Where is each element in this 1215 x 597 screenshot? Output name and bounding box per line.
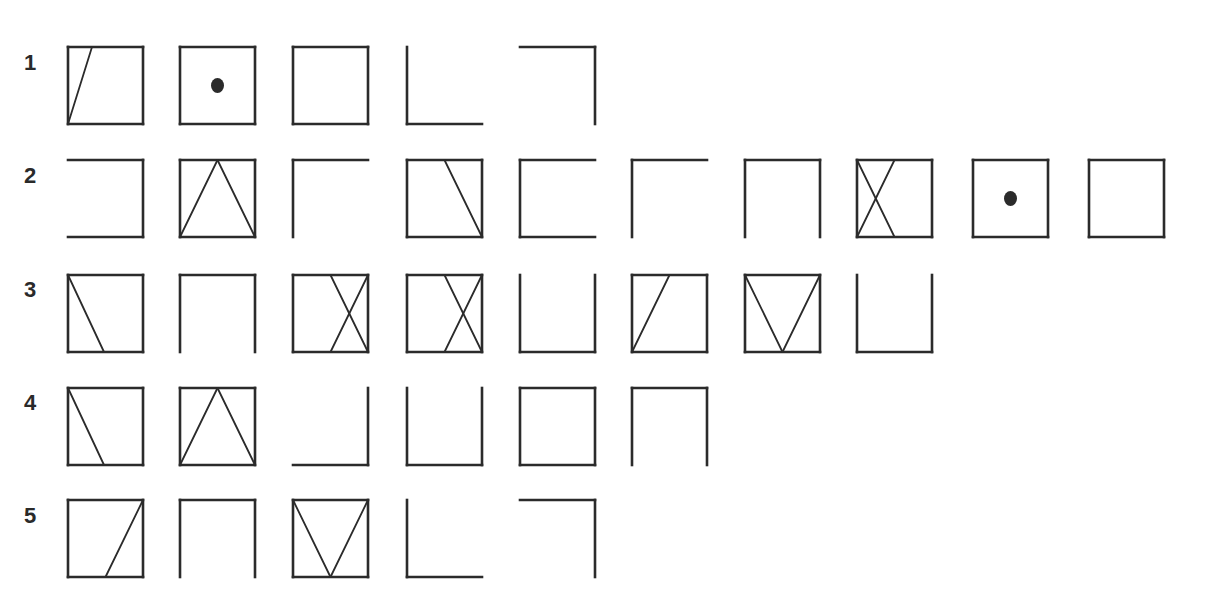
symbol-corner-L (407, 500, 482, 577)
symbol-bracket-open-bottom (180, 500, 255, 577)
symbol-corner-top-right (520, 47, 595, 124)
symbol-corner-top-right (520, 500, 595, 577)
symbol-box-triangle-up (180, 388, 255, 465)
symbol-box (293, 47, 368, 124)
symbol-box-line-tl-to-bmid (68, 275, 143, 352)
symbol-bracket-open-bottom (632, 388, 707, 465)
symbol-corner-L (407, 47, 482, 124)
diagonal-line (106, 500, 144, 577)
symbol-bracket-open-top (520, 275, 595, 352)
symbol-row-4: 4 (24, 388, 707, 465)
v-left-side (293, 500, 331, 577)
symbol-bracket-open-bottom (180, 275, 255, 352)
triangle-right-side (218, 388, 256, 465)
symbol-bracket-open-left (68, 160, 143, 237)
symbol-box-v (745, 275, 820, 352)
center-dot (1004, 191, 1017, 206)
symbol-row-1: 1 (24, 47, 595, 124)
symbol-box-slash-bl-to-t1 (68, 47, 143, 124)
row-label: 2 (24, 163, 36, 188)
symbol-bracket-open-top (407, 388, 482, 465)
symbol-box-line-tmid-to-br (407, 160, 482, 237)
symbol-bracket-open-bottom (745, 160, 820, 237)
symbol-box-line-bmid-to-tr (68, 500, 143, 577)
symbol-row-3: 3 (24, 275, 932, 352)
symbol-box-x-right (293, 275, 368, 352)
symbol-box-x-left (857, 160, 932, 237)
diagonal-line (68, 47, 92, 124)
diagonal-line (632, 275, 670, 352)
diagonal-line (445, 160, 483, 237)
symbol-box (1089, 160, 1164, 237)
symbol-box-dot (180, 47, 255, 124)
row-label: 5 (24, 503, 36, 528)
triangle-right-side (218, 160, 256, 237)
symbol-box-triangle-up (180, 160, 255, 237)
v-right-side (783, 275, 821, 352)
symbol-box-v (293, 500, 368, 577)
diagonal-line (68, 388, 104, 465)
symbol-box-x-right (407, 275, 482, 352)
triangle-left-side (180, 388, 218, 465)
symbol-bracket-open-top (857, 275, 932, 352)
symbol-box-line-tl-to-bmid (68, 388, 143, 465)
symbol-row-5: 5 (24, 500, 595, 577)
symbol-corner-bottom-right (293, 388, 368, 465)
symbol-box (520, 388, 595, 465)
symbol-bracket-open-right (520, 160, 595, 237)
v-right-side (331, 500, 369, 577)
symbol-row-2: 2 (24, 160, 1164, 237)
triangle-left-side (180, 160, 218, 237)
symbol-box-dot (973, 160, 1048, 237)
symbol-corner-top-left (632, 160, 707, 237)
row-label: 4 (24, 390, 37, 415)
diagonal-line (68, 275, 104, 352)
v-left-side (745, 275, 783, 352)
row-label: 3 (24, 277, 36, 302)
symbol-box-line-bl-to-tmid (632, 275, 707, 352)
symbol-sequence-figure: 12345 (0, 0, 1215, 597)
row-label: 1 (24, 50, 36, 75)
center-dot (211, 78, 224, 93)
symbol-corner-top-left (293, 160, 368, 237)
